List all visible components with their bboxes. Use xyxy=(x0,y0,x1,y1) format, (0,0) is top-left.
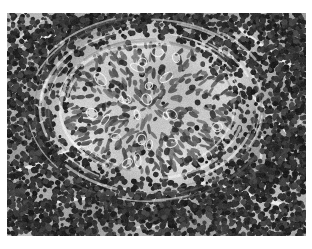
micrograph-canvas xyxy=(7,13,306,236)
histopathology-micrograph xyxy=(7,13,306,236)
figure-page: Grayscale histopathology micrograph of l… xyxy=(0,0,312,249)
micrograph-alt-text: Grayscale histopathology micrograph of l… xyxy=(0,0,1,1)
